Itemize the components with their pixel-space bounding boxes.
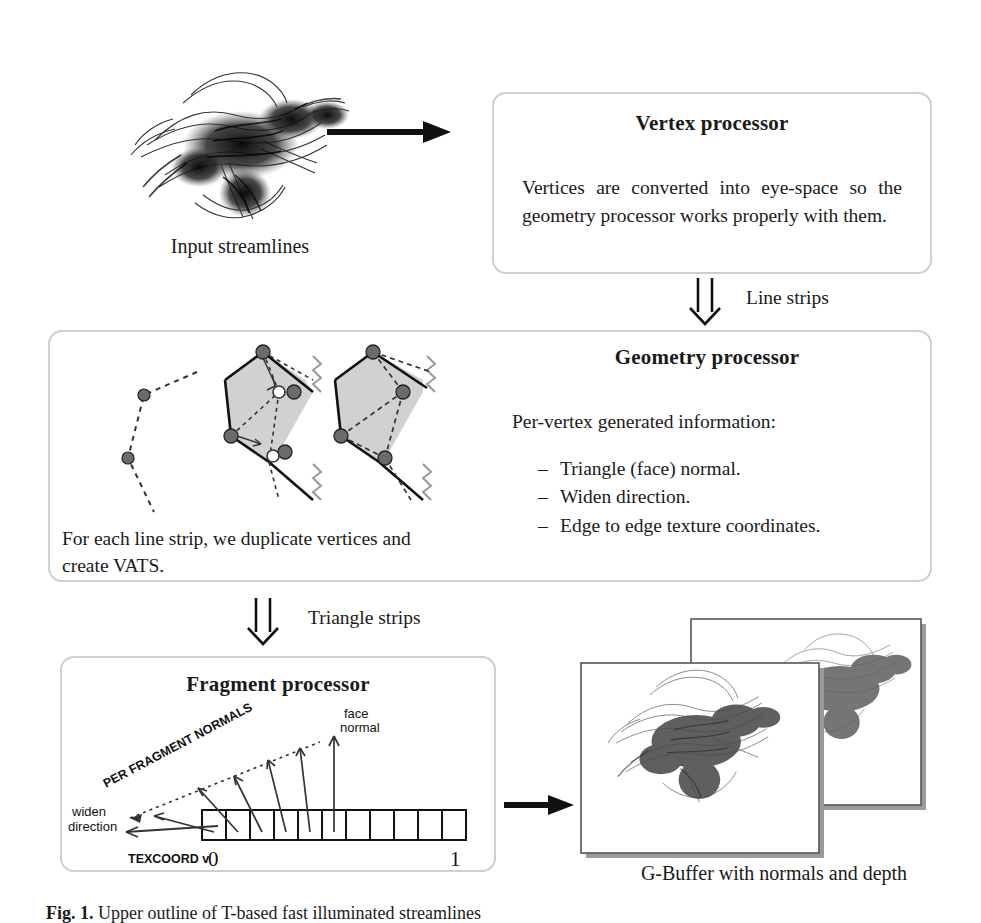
geometry-processor-intro: Per-vertex generated information: — [512, 408, 912, 436]
figure-caption-text: Upper outline of T-based fast illuminate… — [98, 903, 481, 923]
per-fragment-normals-label: PER FRAGMENT NORMALS — [101, 700, 255, 791]
texcoord-end-value: 1 — [450, 847, 461, 871]
arrow-fragment-to-output — [502, 793, 582, 819]
double-arrow-geometry-to-fragment — [248, 598, 288, 644]
g-buffer-caption: G-Buffer with normals and depth — [578, 862, 970, 885]
list-item-label: Edge to edge texture coordinates. — [560, 515, 820, 536]
list-item-label: Widen direction. — [560, 486, 690, 507]
fragment-normals-diagram: PER FRAGMENT NORMALS face normal widen d… — [68, 692, 492, 870]
line-strips-label: Line strips — [746, 287, 829, 309]
list-item: –Widen direction. — [538, 483, 938, 511]
triangle-strips-label: Triangle strips — [308, 607, 421, 629]
vertex-processor-body: Vertices are converted into eye-space so… — [522, 174, 902, 229]
figure-caption-label: Fig. 1. — [46, 903, 94, 923]
geometry-processor-bullet-list: –Triangle (face) normal. –Widen directio… — [538, 455, 938, 540]
list-item-label: Triangle (face) normal. — [560, 458, 741, 479]
vertex-processor-title: Vertex processor — [494, 111, 930, 136]
widen-direction-label-line2: direction — [68, 819, 117, 834]
geometry-diagram-caption: For each line strip, we duplicate vertic… — [62, 525, 462, 580]
line-strip-diagram — [92, 340, 467, 520]
texcoord-start-value: 0 — [208, 847, 219, 871]
widen-direction-label-line1: widen — [71, 804, 106, 819]
g-buffer-figure — [578, 612, 970, 860]
input-streamlines-caption: Input streamlines — [60, 235, 420, 258]
g-buffer-images — [578, 612, 970, 860]
fragment-diagram-svg: PER FRAGMENT NORMALS face normal widen d… — [68, 692, 492, 870]
figure-caption: Fig. 1. Upper outline of T-based fast il… — [46, 903, 946, 923]
arrow-input-to-vertex — [325, 118, 455, 146]
face-normal-label-line2: normal — [340, 720, 380, 735]
vertex-processor-box: Vertex processor Vertices are converted … — [492, 92, 932, 274]
double-arrow-vertex-to-geometry — [690, 278, 730, 324]
list-item: –Triangle (face) normal. — [538, 455, 938, 483]
face-normal-label-line1: face — [344, 706, 369, 721]
geometry-processor-title: Geometry processor — [492, 345, 922, 370]
strip-duplication-illustration — [92, 340, 467, 520]
list-item: –Edge to edge texture coordinates. — [538, 512, 938, 540]
texcoord-label: TEXCOORD v — [128, 852, 209, 866]
